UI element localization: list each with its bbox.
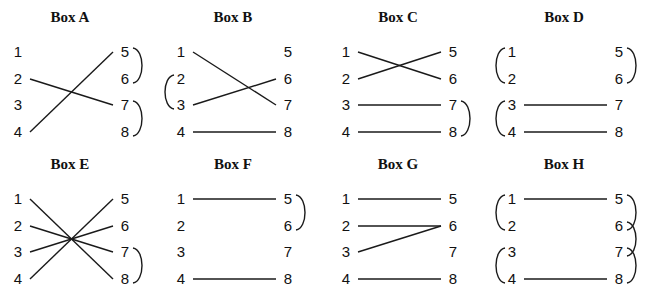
terminal-label: 6: [449, 70, 457, 87]
wiring-diagram: Box A12345678Box B12345678Box C12345678B…: [0, 0, 655, 296]
terminal-label: 5: [615, 43, 623, 60]
terminal-label: 3: [342, 96, 350, 113]
terminal-label: 6: [449, 217, 457, 234]
terminal-label: 5: [449, 190, 457, 207]
terminal-label: 3: [508, 243, 516, 260]
terminal-label: 2: [342, 70, 350, 87]
terminal-label: 5: [615, 190, 623, 207]
terminal-label: 1: [14, 43, 22, 60]
terminal-label: 2: [177, 217, 185, 234]
box-g: Box G12345678: [342, 156, 457, 287]
wire-2-7: [30, 79, 113, 105]
wire-1-7: [193, 52, 276, 105]
box-title: Box D: [544, 9, 584, 25]
terminal-label: 3: [177, 243, 185, 260]
terminal-label: 4: [508, 270, 516, 287]
terminal-label: 1: [508, 43, 516, 60]
box-title: Box A: [51, 9, 90, 25]
terminal-label: 4: [177, 123, 185, 140]
terminal-label: 4: [177, 270, 185, 287]
terminal-label: 7: [449, 243, 457, 260]
jumper-loop-7-8: [461, 101, 470, 136]
terminal-label: 4: [508, 123, 516, 140]
terminal-label: 3: [14, 243, 22, 260]
terminal-label: 8: [449, 123, 457, 140]
terminal-label: 6: [121, 70, 129, 87]
terminal-label: 7: [121, 96, 129, 113]
box-title: Box F: [214, 156, 252, 172]
jumper-loop-1-2: [496, 195, 505, 230]
terminal-label: 5: [449, 43, 457, 60]
terminal-label: 1: [342, 43, 350, 60]
terminal-label: 7: [284, 96, 292, 113]
terminal-label: 7: [449, 96, 457, 113]
box-title: Box C: [378, 9, 418, 25]
terminal-label: 7: [284, 243, 292, 260]
jumper-loop-5-6: [133, 48, 142, 83]
terminal-label: 4: [14, 270, 22, 287]
terminal-label: 6: [121, 217, 129, 234]
terminal-label: 1: [177, 43, 185, 60]
terminal-label: 3: [177, 96, 185, 113]
terminal-label: 8: [449, 270, 457, 287]
jumper-loop-3-4: [496, 101, 505, 136]
box-title: Box E: [51, 156, 90, 172]
box-title: Box H: [544, 156, 585, 172]
terminal-label: 8: [121, 270, 129, 287]
terminal-label: 5: [284, 190, 292, 207]
terminal-label: 5: [284, 43, 292, 60]
terminal-label: 2: [508, 70, 516, 87]
wire-3-6: [193, 79, 276, 105]
terminal-label: 1: [177, 190, 185, 207]
jumper-loop-5-6: [627, 48, 636, 83]
jumper-loop-7-8: [133, 101, 142, 136]
box-title: Box G: [378, 156, 419, 172]
terminal-label: 6: [615, 70, 623, 87]
terminal-label: 8: [284, 123, 292, 140]
terminal-label: 3: [14, 96, 22, 113]
terminal-label: 5: [121, 190, 129, 207]
terminal-label: 8: [615, 270, 623, 287]
jumper-loop-7-8: [133, 248, 142, 283]
wire-3-6: [358, 226, 441, 252]
terminal-label: 2: [342, 217, 350, 234]
terminal-label: 7: [615, 243, 623, 260]
terminal-label: 2: [14, 70, 22, 87]
terminal-label: 4: [342, 270, 350, 287]
jumper-loop-1-2: [496, 48, 505, 83]
terminal-label: 2: [177, 70, 185, 87]
terminal-label: 2: [508, 217, 516, 234]
terminal-label: 4: [14, 123, 22, 140]
jumper-loop-3-4: [496, 248, 505, 283]
terminal-label: 8: [121, 123, 129, 140]
terminal-label: 1: [508, 190, 516, 207]
box-b: Box B12345678: [165, 9, 292, 140]
jumper-loop-5-6: [296, 195, 305, 230]
terminal-label: 3: [508, 96, 516, 113]
jumper-loop-2-3: [165, 75, 174, 109]
box-a: Box A12345678: [14, 9, 142, 140]
box-e: Box E12345678: [14, 156, 142, 287]
terminal-label: 6: [284, 217, 292, 234]
terminal-label: 6: [615, 217, 623, 234]
terminal-label: 4: [342, 123, 350, 140]
terminal-label: 1: [342, 190, 350, 207]
terminal-label: 1: [14, 190, 22, 207]
box-d: Box D12345678: [496, 9, 636, 140]
terminal-label: 6: [284, 70, 292, 87]
terminal-label: 8: [284, 270, 292, 287]
box-title: Box B: [214, 9, 253, 25]
terminal-label: 2: [14, 217, 22, 234]
terminal-label: 8: [615, 123, 623, 140]
box-f: Box F12345678: [177, 156, 305, 287]
box-h: Box H12345678: [496, 156, 636, 287]
terminal-label: 5: [121, 43, 129, 60]
terminal-label: 7: [615, 96, 623, 113]
terminal-label: 3: [342, 243, 350, 260]
box-c: Box C12345678: [342, 9, 470, 140]
terminal-label: 7: [121, 243, 129, 260]
